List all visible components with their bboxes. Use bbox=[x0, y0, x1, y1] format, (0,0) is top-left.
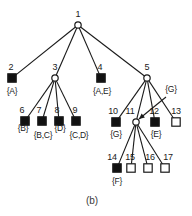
node-open-square-16[interactable] bbox=[144, 164, 152, 172]
node-id-label-7: 7 bbox=[37, 106, 42, 115]
node-id-label-14: 14 bbox=[107, 153, 117, 162]
figure-caption: (b) bbox=[86, 195, 98, 206]
node-set-label-5: {G} bbox=[165, 85, 176, 94]
node-set-label-10: {G} bbox=[110, 130, 121, 139]
node-id-label-8: 8 bbox=[55, 106, 60, 115]
tree-edge bbox=[79, 28, 99, 74]
node-open-square-15[interactable] bbox=[127, 164, 135, 172]
node-id-label-11: 11 bbox=[126, 107, 135, 116]
node-set-label-7: {B,C} bbox=[34, 131, 52, 140]
node-id-label-2: 2 bbox=[9, 63, 14, 72]
tree-edge bbox=[81, 27, 145, 76]
node-id-label-13: 13 bbox=[171, 107, 181, 116]
tree-edge bbox=[56, 28, 76, 75]
node-open-square-13[interactable] bbox=[172, 118, 180, 126]
node-id-label-9: 9 bbox=[73, 106, 78, 115]
node-set-label-12: {E} bbox=[151, 130, 161, 139]
tree-diagram-figure: 12{A}34{A,E}5{G}6{B}7{B,C}8{D}9{C,D}10{G… bbox=[0, 0, 192, 216]
node-filled-square-14[interactable] bbox=[113, 164, 121, 172]
node-id-label-1: 1 bbox=[76, 10, 81, 19]
node-id-label-3: 3 bbox=[53, 63, 58, 72]
node-set-label-8: {D} bbox=[55, 124, 66, 133]
node-circle-5[interactable] bbox=[144, 75, 150, 81]
node-open-square-17[interactable] bbox=[161, 164, 169, 172]
node-circle-1[interactable] bbox=[75, 22, 81, 28]
node-id-label-15: 15 bbox=[125, 153, 135, 162]
node-filled-square-4[interactable] bbox=[97, 74, 105, 82]
node-set-label-4: {A,E} bbox=[93, 87, 111, 96]
node-set-label-9: {C,D} bbox=[70, 131, 89, 140]
node-id-label-12: 12 bbox=[149, 107, 159, 116]
node-filled-square-12[interactable] bbox=[151, 118, 159, 126]
node-circle-3[interactable] bbox=[52, 75, 58, 81]
node-set-label-6: {B} bbox=[18, 124, 28, 133]
node-id-label-5: 5 bbox=[145, 63, 150, 72]
node-circle-11[interactable] bbox=[133, 119, 139, 125]
node-layer bbox=[8, 22, 180, 172]
tree-graph bbox=[0, 0, 192, 216]
node-id-label-10: 10 bbox=[108, 107, 118, 116]
node-filled-square-2[interactable] bbox=[8, 74, 16, 82]
node-id-label-6: 6 bbox=[20, 106, 25, 115]
tree-edge bbox=[137, 81, 146, 119]
node-filled-square-10[interactable] bbox=[112, 118, 120, 126]
node-id-label-4: 4 bbox=[98, 63, 103, 72]
node-filled-square-7[interactable] bbox=[38, 117, 46, 125]
node-id-label-16: 16 bbox=[145, 153, 155, 162]
node-id-label-17: 17 bbox=[163, 153, 173, 162]
node-set-label-14: {F} bbox=[112, 177, 122, 186]
node-filled-square-9[interactable] bbox=[72, 117, 80, 125]
node-set-label-2: {A} bbox=[7, 87, 17, 96]
